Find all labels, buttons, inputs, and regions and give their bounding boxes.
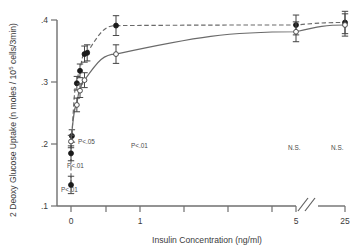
significance-label: P<.01 [67,162,84,169]
x-tick-label-0: 0 [69,216,74,226]
significance-label: N.S. [331,144,344,151]
significance-label: P<.01 [61,186,78,193]
x-tick-label-1: 1 [138,216,143,226]
y-tick-label-3: .3 [41,77,48,87]
data-point [342,14,348,36]
data-point [81,73,87,88]
significance-label: N.S. [288,144,301,151]
x-axis-title: Insulin Concentration (ng/ml) [152,235,262,245]
y-tick-label-2: .2 [41,139,48,149]
marker-open [294,29,299,34]
significance-label: P<.01 [131,142,148,149]
marker-filled [114,23,119,28]
marker-filled [85,50,90,55]
marker-filled [69,151,74,156]
marker-open [78,88,83,93]
y-tick-label-4: .4 [41,15,48,25]
svg-text:2 Deoxy Glucose Uptake (n mole: 2 Deoxy Glucose Uptake (n moles / 105 ce… [8,23,18,217]
significance-annotations: P<.05P<.01P<.01P<.01N.S.N.S. [61,138,344,193]
marker-open [114,52,119,57]
curve-solid [71,25,345,142]
y-tick-label-1: .1 [41,201,48,211]
y-axis-title: 2 Deoxy Glucose Uptake (n moles / 105 ce… [8,23,18,217]
x-tick-label-25: 25 [340,216,350,226]
x-axis-break-icon [298,198,315,211]
significance-label: P<.05 [78,138,95,145]
marker-open [343,23,348,28]
curve-dashed [71,22,345,184]
marker-open [69,139,74,144]
chart-figure: .4 .3 .2 .1 2 Deoxy Glucose Uptake (n mo… [0,0,364,252]
marker-filled [74,81,79,86]
marker-open [82,78,87,83]
y-axis-title-main: 2 Deoxy Glucose Uptake (n moles / 10 [8,70,18,217]
plot-data-layer [68,11,348,193]
x-axis: 0 1 5 25 [57,198,350,226]
data-point [113,16,119,36]
y-axis-title-tail: cells/3min) [8,23,18,67]
x-tick-label-5: 5 [294,216,299,226]
marker-open [74,103,79,108]
y-axis: .4 .3 .2 .1 [41,15,57,211]
data-point [113,45,119,64]
insulin-dose-response-plot: .4 .3 .2 .1 2 Deoxy Glucose Uptake (n mo… [0,0,364,252]
